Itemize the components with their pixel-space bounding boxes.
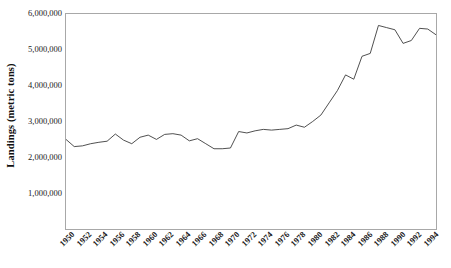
y-tick-label: 5,000,000 — [14, 45, 62, 54]
x-tick-label: 1970 — [223, 230, 241, 248]
chart-figure: Landings (metric tons) 6,000,0005,000,00… — [0, 0, 451, 268]
x-axis-tick-labels: 1950195219541956195819601962196419661968… — [65, 230, 437, 268]
x-tick-label: 1958 — [124, 230, 142, 248]
x-tick-label: 1968 — [207, 230, 225, 248]
y-tick-label: 3,000,000 — [14, 117, 62, 126]
x-tick-label: 1952 — [75, 230, 93, 248]
x-tick-label: 1974 — [256, 230, 274, 248]
plot-svg — [66, 14, 436, 229]
y-tick-label: 1,000,000 — [14, 189, 62, 198]
y-tick-label: 2,000,000 — [14, 153, 62, 162]
x-tick-label: 1980 — [306, 230, 324, 248]
x-tick-label: 1964 — [174, 230, 192, 248]
y-axis-tick-labels: 6,000,0005,000,0004,000,0003,000,0002,00… — [14, 0, 62, 268]
x-tick-label: 1956 — [108, 230, 126, 248]
y-tick-label: 6,000,000 — [14, 9, 62, 18]
x-tick-label: 1966 — [190, 230, 208, 248]
x-tick-label: 1992 — [405, 230, 423, 248]
x-tick-label: 1962 — [157, 230, 175, 248]
x-tick-label: 1988 — [372, 230, 390, 248]
x-tick-label: 1994 — [422, 230, 440, 248]
y-tick-label: 4,000,000 — [14, 81, 62, 90]
x-tick-label: 1978 — [289, 230, 307, 248]
x-tick-label: 1982 — [323, 230, 341, 248]
x-tick-label: 1984 — [339, 230, 357, 248]
x-tick-label: 1954 — [91, 230, 109, 248]
x-tick-label: 1960 — [141, 230, 159, 248]
x-tick-label: 1990 — [389, 230, 407, 248]
plot-area — [65, 13, 437, 230]
data-series-line — [66, 25, 436, 148]
x-tick-label: 1986 — [356, 230, 374, 248]
